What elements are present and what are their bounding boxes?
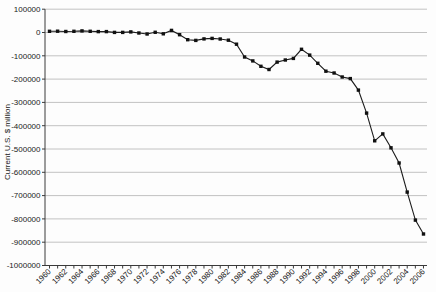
data-point-marker	[259, 65, 262, 68]
chart-figure: 1000000-100000-200000-300000-400000-5000…	[0, 0, 436, 292]
x-tick-label: 1968	[99, 267, 118, 286]
data-point-marker	[113, 31, 116, 34]
y-tick-label: -600000	[11, 168, 41, 177]
data-point-marker	[194, 39, 197, 42]
x-tick-label: 1994	[310, 267, 329, 286]
data-point-marker	[292, 57, 295, 60]
x-tick-label: 2000	[359, 267, 378, 286]
data-point-marker	[219, 37, 222, 40]
x-axis: 1960196219641966196819701972197419761978…	[34, 266, 427, 286]
data-point-marker	[316, 62, 319, 65]
data-point-marker	[341, 75, 344, 78]
data-point-marker	[284, 58, 287, 61]
data-point-marker	[48, 30, 51, 33]
x-tick-label: 1982	[213, 267, 232, 286]
x-tick-label: 2004	[392, 267, 411, 286]
data-point-marker	[162, 32, 165, 35]
data-point-marker	[300, 48, 303, 51]
data-point-marker	[80, 29, 83, 32]
data-point-marker	[72, 30, 75, 33]
y-tick-label: -200000	[11, 75, 41, 84]
data-point-marker	[186, 38, 189, 41]
x-tick-label: 1972	[132, 267, 151, 286]
data-point-marker	[64, 30, 67, 33]
y-tick-label: -100000	[11, 52, 41, 61]
y-tick-label: -400000	[11, 122, 41, 131]
y-tick-label: -700000	[11, 191, 41, 200]
x-tick-label: 1978	[180, 267, 199, 286]
x-tick-label: 1998	[343, 267, 362, 286]
data-point-marker	[97, 30, 100, 33]
trade-balance-line-chart: 1000000-100000-200000-300000-400000-5000…	[0, 0, 436, 292]
data-point-marker	[267, 68, 270, 71]
data-point-marker	[406, 190, 409, 193]
data-point-marker	[308, 53, 311, 56]
data-point-marker	[227, 39, 230, 42]
series-line	[50, 30, 424, 234]
x-tick-label: 1990	[278, 267, 297, 286]
y-tick-label: -500000	[11, 145, 41, 154]
x-tick-label: 1986	[245, 267, 264, 286]
x-tick-label: 1970	[115, 267, 134, 286]
data-point-marker	[178, 33, 181, 36]
x-tick-label: 1964	[66, 267, 85, 286]
data-point-marker	[397, 161, 400, 164]
data-point-marker	[324, 70, 327, 73]
data-point-marker	[137, 31, 140, 34]
x-tick-label: 1984	[229, 267, 248, 286]
data-point-marker	[235, 43, 238, 46]
data-point-marker	[129, 30, 132, 33]
x-tick-label: 1974	[148, 267, 167, 286]
data-point-marker	[365, 111, 368, 114]
data-point-marker	[202, 37, 205, 40]
data-point-marker	[210, 37, 213, 40]
y-tick-label: -800000	[11, 215, 41, 224]
y-tick-label: -300000	[11, 98, 41, 107]
x-tick-label: 2002	[375, 267, 394, 286]
data-point-marker	[275, 60, 278, 63]
data-series	[48, 29, 425, 236]
y-axis-title: Current U.S. $ million	[3, 104, 12, 180]
data-point-marker	[170, 29, 173, 32]
x-tick-label: 1996	[327, 267, 346, 286]
data-point-marker	[243, 55, 246, 58]
x-tick-label: 1980	[197, 267, 216, 286]
x-tick-label: 1992	[294, 267, 313, 286]
y-tick-label: 100000	[14, 5, 41, 14]
data-point-marker	[56, 30, 59, 33]
x-tick-label: 1966	[83, 267, 102, 286]
data-point-marker	[121, 31, 124, 34]
data-point-marker	[381, 132, 384, 135]
data-point-marker	[349, 77, 352, 80]
y-axis: 1000000-100000-200000-300000-400000-5000…	[7, 5, 45, 270]
data-point-marker	[145, 32, 148, 35]
x-tick-label: 2006	[408, 267, 427, 286]
x-tick-label: 1962	[50, 267, 69, 286]
x-tick-label: 1988	[262, 267, 281, 286]
data-point-marker	[389, 146, 392, 149]
y-tick-label: 0	[36, 28, 41, 37]
data-point-marker	[373, 139, 376, 142]
y-tick-label: -1000000	[7, 261, 41, 270]
data-point-marker	[357, 88, 360, 91]
x-tick-label: 1976	[164, 267, 183, 286]
gridlines	[45, 9, 427, 265]
data-point-marker	[422, 232, 425, 235]
data-point-marker	[105, 30, 108, 33]
data-point-marker	[251, 59, 254, 62]
data-point-marker	[332, 71, 335, 74]
y-tick-label: -900000	[11, 238, 41, 247]
data-point-marker	[89, 30, 92, 33]
data-point-marker	[154, 31, 157, 34]
data-point-marker	[414, 218, 417, 221]
